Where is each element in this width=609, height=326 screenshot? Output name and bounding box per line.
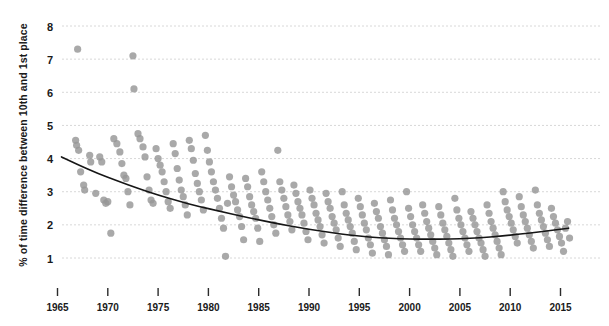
scatter-point — [308, 195, 315, 202]
scatter-point — [130, 85, 137, 92]
scatter-point — [298, 211, 305, 218]
scatter-point — [369, 249, 376, 256]
scatter-point — [274, 147, 281, 154]
y-axis-tick-labels: 12345678 — [47, 21, 54, 265]
scatter-point — [141, 153, 148, 160]
scatter-point — [483, 201, 490, 208]
scatter-point — [278, 186, 285, 193]
x-tick-label: 1975 — [147, 302, 170, 313]
scatter-point — [107, 230, 114, 237]
scatter-point — [524, 225, 531, 232]
scatter-point — [157, 162, 164, 169]
scatter-point — [224, 200, 231, 207]
scatter-point — [161, 178, 168, 185]
scatter-point — [220, 225, 227, 232]
scatter-point — [92, 190, 99, 197]
scatter-point — [212, 186, 219, 193]
scatter-point — [262, 188, 269, 195]
scatter-point — [361, 220, 368, 227]
scatter-point — [502, 198, 509, 205]
scatter-point — [316, 223, 323, 230]
scatter-point — [487, 218, 494, 225]
scatter-point — [238, 223, 245, 230]
scatter-point — [496, 244, 503, 251]
scatter-point — [544, 236, 551, 243]
scatter-point — [286, 218, 293, 225]
scatter-point — [490, 225, 497, 232]
scatter-point — [419, 201, 426, 208]
scatter-point — [337, 243, 344, 250]
scatter-point — [113, 140, 120, 147]
scatter-point — [320, 239, 327, 246]
scatter-point — [250, 208, 257, 215]
scatter-point — [290, 181, 297, 188]
scatter-point — [264, 196, 271, 203]
scatter-point — [359, 211, 366, 218]
scatter-point — [136, 135, 143, 142]
scatter-point — [198, 196, 205, 203]
scatter-point — [532, 186, 539, 193]
scatter-point — [327, 205, 334, 212]
scatter-point — [393, 221, 400, 228]
scatter-point — [477, 239, 484, 246]
scatter-point — [516, 193, 523, 200]
scatter-point — [155, 155, 162, 162]
scatter-point — [407, 213, 414, 220]
scatter-point — [325, 198, 332, 205]
scatter-point — [304, 236, 311, 243]
scatter-point — [373, 208, 380, 215]
scatter-point — [230, 191, 237, 198]
scatter-point — [510, 226, 517, 233]
scatter-point — [210, 178, 217, 185]
scatter-point — [104, 198, 111, 205]
scatter-point — [118, 160, 125, 167]
scatter-point — [268, 213, 275, 220]
scatter-point — [74, 46, 81, 53]
scatter-point — [371, 200, 378, 207]
scatter-point — [375, 215, 382, 222]
scatter-point — [449, 253, 456, 260]
scatter-point — [98, 158, 105, 165]
scatter-point — [345, 216, 352, 223]
scatter-point — [126, 201, 133, 208]
scatter-point — [425, 225, 432, 232]
scatter-point — [276, 178, 283, 185]
x-tick-label: 1990 — [298, 302, 321, 313]
scatter-point — [152, 145, 159, 152]
scatter-point — [188, 145, 195, 152]
scatter-point — [266, 205, 273, 212]
scatter-point — [192, 170, 199, 177]
scatter-point — [467, 208, 474, 215]
y-tick-label: 1 — [47, 253, 53, 265]
scatter-point — [520, 211, 527, 218]
scatter-point — [556, 233, 563, 240]
scatter-point — [411, 228, 418, 235]
scatter-point — [463, 241, 470, 248]
scatter-point — [242, 175, 249, 182]
scatter-point — [465, 248, 472, 255]
scatter-point — [294, 198, 301, 205]
x-tick-label: 2015 — [549, 302, 572, 313]
scatter-point — [391, 215, 398, 222]
scatter-chart: % of time difference between 10th and 1s… — [0, 0, 609, 326]
scatter-point — [471, 221, 478, 228]
scatter-point — [196, 188, 203, 195]
y-tick-label: 6 — [47, 87, 53, 99]
x-tick-label: 2010 — [499, 302, 522, 313]
scatter-point — [385, 251, 392, 258]
scatter-point — [459, 228, 466, 235]
scatter-point — [409, 221, 416, 228]
scatter-point — [174, 165, 181, 172]
scatter-point — [485, 210, 492, 217]
scatter-point — [284, 211, 291, 218]
scatter-point — [522, 218, 529, 225]
scatter-point — [506, 213, 513, 220]
x-tick-label: 1965 — [46, 302, 69, 313]
y-tick-label: 3 — [47, 186, 53, 198]
scatter-point — [431, 244, 438, 251]
scatter-point — [258, 168, 265, 175]
scatter-point — [355, 195, 362, 202]
scatter-point — [351, 238, 358, 245]
scatter-point — [518, 203, 525, 210]
scatter-point — [222, 253, 229, 260]
